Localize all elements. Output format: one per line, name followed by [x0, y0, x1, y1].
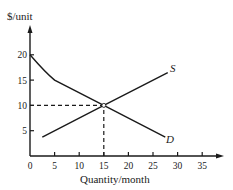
axes [28, 25, 225, 159]
supply-demand-chart: 05101520253035 5101520 S D $/unit Quanti… [0, 0, 233, 190]
x-axis-arrow-icon [216, 154, 224, 159]
x-axis-title: Quantity/month [80, 173, 150, 185]
y-tick-label: 20 [18, 50, 28, 60]
x-tick-label: 30 [173, 161, 183, 171]
x-tick-label: 0 [28, 161, 33, 171]
demand-curve [30, 55, 165, 137]
y-axis-arrow-icon [28, 25, 33, 33]
y-ticks: 5101520 [18, 50, 35, 136]
y-tick-label: 15 [18, 76, 28, 86]
y-tick-label: 5 [22, 126, 27, 136]
demand-label: D [165, 133, 174, 145]
y-axis-title: $/unit [7, 10, 33, 22]
x-tick-label: 15 [99, 161, 109, 171]
equilibrium-point [102, 103, 106, 107]
x-ticks: 05101520253035 [28, 152, 208, 171]
x-tick-label: 5 [52, 161, 57, 171]
x-tick-label: 35 [197, 161, 207, 171]
y-tick-label: 10 [18, 101, 28, 111]
x-tick-label: 20 [124, 161, 134, 171]
equilibrium-guides [30, 105, 104, 156]
supply-label: S [170, 62, 176, 74]
x-tick-label: 25 [148, 161, 158, 171]
x-tick-label: 10 [74, 161, 84, 171]
